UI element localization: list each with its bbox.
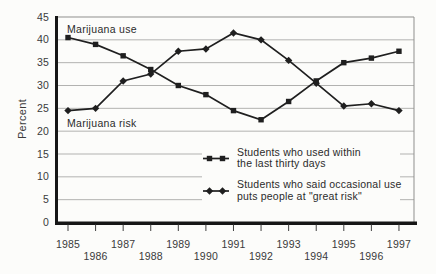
marker-diamond-1991 (230, 29, 237, 36)
line-marijuana-use (68, 38, 399, 120)
x-tick-label-1996: 1996 (359, 250, 383, 262)
marker-diamond-1996 (368, 100, 375, 107)
x-tick-label-1987: 1987 (111, 238, 135, 250)
marker-square-1992 (258, 117, 263, 122)
y-tick-label-40: 40 (37, 33, 49, 45)
y-tick-label-5: 5 (43, 193, 49, 205)
x-tick-label-1985: 1985 (56, 238, 80, 250)
y-tick-label-35: 35 (37, 56, 49, 68)
series-label-marijuana-use: Marijuana use (67, 23, 137, 35)
line-chart: 051015202530354045 198519861987198819891… (0, 0, 436, 274)
marker-diamond-1990 (202, 45, 209, 52)
marker-square-1986 (93, 42, 98, 47)
y-tick-label-0: 0 (43, 216, 49, 228)
y-tick-label-15: 15 (37, 148, 49, 160)
legend-use-label-line2: the last thirty days (237, 157, 326, 169)
y-tick-label-45: 45 (37, 11, 49, 23)
series-marijuana-use (65, 35, 401, 123)
y-tick-label-10: 10 (37, 170, 49, 182)
x-tick-label-1988: 1988 (139, 250, 163, 262)
x-tick-label-1997: 1997 (387, 238, 411, 250)
legend-risk-label-line2: puts people at "great risk" (237, 190, 362, 202)
marker-square-1991 (231, 108, 236, 113)
y-tick-label-30: 30 (37, 79, 49, 91)
x-tick-label-1993: 1993 (277, 238, 301, 250)
y-axis-title: Percent (16, 99, 28, 139)
marker-square-1990 (203, 92, 208, 97)
x-tick-labels: 1985198619871988198919901991199219931994… (56, 238, 411, 262)
marker-square-1996 (369, 55, 374, 60)
x-ticks (68, 225, 399, 232)
marker-square-1989 (176, 83, 181, 88)
series-label-marijuana-risk: Marijuana risk (67, 117, 137, 129)
x-tick-label-1990: 1990 (194, 250, 218, 262)
y-tick-labels: 051015202530354045 (37, 11, 49, 229)
marker-square-1997 (396, 49, 401, 54)
legend-marker-square-1 (207, 156, 212, 161)
marker-square-1987 (120, 53, 125, 58)
legend-use-label-line1: Students who used within (237, 146, 361, 158)
x-tick-label-1991: 1991 (221, 238, 245, 250)
line-marijuana-risk (68, 33, 399, 111)
marker-square-1985 (65, 35, 70, 40)
marker-square-1993 (286, 99, 291, 104)
x-tick-label-1989: 1989 (166, 238, 190, 250)
marker-square-1995 (341, 60, 346, 65)
marijuana-trends-figure: 051015202530354045 198519861987198819891… (0, 0, 436, 274)
x-tick-label-1995: 1995 (332, 238, 356, 250)
y-tick-label-20: 20 (37, 125, 49, 137)
legend-risk-label-line1: Students who said occasional use (237, 178, 402, 190)
x-tick-label-1986: 1986 (83, 250, 107, 262)
legend-marker-square-2 (220, 156, 225, 161)
x-tick-label-1992: 1992 (249, 250, 273, 262)
x-tick-label-1994: 1994 (304, 250, 328, 262)
series-marijuana-risk (64, 29, 402, 114)
y-tick-label-25: 25 (37, 102, 49, 114)
